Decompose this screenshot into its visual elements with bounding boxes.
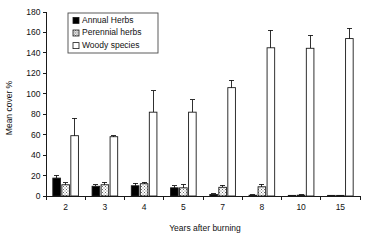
bar-annual-herbs-3 [92,186,100,196]
legend-label: Perennial herbs [82,27,142,37]
dotted-square-marker [73,30,79,36]
bar-annual-herbs-5 [171,188,179,196]
y-tick-label: 40 [31,150,41,160]
y-tick-label: 120 [26,68,40,78]
bar-woody-species-10 [306,48,314,196]
legend-entry: Woody species [73,40,139,50]
bar-perennial-herbs-10 [297,195,305,196]
x-tick-label: 4 [142,202,147,212]
y-tick-label: 20 [31,171,41,181]
y-tick-label: 60 [31,130,41,140]
bar-perennial-herbs-8 [258,187,266,196]
y-tick-label: 0 [36,191,41,201]
x-tick-label: 15 [336,202,346,212]
legend-label: Woody species [82,40,139,50]
y-axis-title-text: Mean cover % [4,80,14,135]
bar-perennial-herbs-2 [62,185,70,196]
bar-annual-herbs-8 [249,195,257,196]
bar-annual-herbs-7 [210,194,218,196]
x-tick-label: 3 [103,202,108,212]
bar-perennial-herbs-3 [101,185,109,196]
bar-perennial-herbs-4 [140,184,148,196]
bar-perennial-herbs-7 [219,187,227,196]
bar-woody-species-3 [110,137,118,196]
bar-woody-species-7 [228,88,236,196]
bar-perennial-herbs-5 [180,188,188,196]
open-square-marker [73,43,79,49]
bar-annual-herbs-2 [53,178,61,196]
y-axis-title: Mean cover % [4,80,14,135]
y-tick-label: 180 [26,7,40,17]
bar-woody-species-4 [149,112,157,196]
bar-chart-svg: 020406080100120140160180 2345781015 Mean… [0,0,367,240]
legend-label: Annual Herbs [82,15,134,25]
legend-entry: Annual Herbs [73,15,134,25]
filled-square-marker [73,17,79,23]
chart-figure: 020406080100120140160180 2345781015 Mean… [0,0,367,240]
y-tick-label: 100 [26,89,40,99]
y-tick-label: 140 [26,48,40,58]
bar-woody-species-2 [71,136,79,196]
bar-annual-herbs-4 [131,186,139,196]
y-tick-label: 80 [31,109,41,119]
x-tick-label: 7 [220,202,225,212]
x-tick-label: 5 [181,202,186,212]
x-axis-title-text: Years after burning [169,223,241,233]
x-tick-label: 2 [63,202,68,212]
bar-woody-species-5 [189,112,197,196]
legend-entry: Perennial herbs [73,27,142,37]
chart-legend: Annual HerbsPerennial herbsWoody species [68,13,158,53]
bar-woody-species-15 [346,39,354,196]
x-tick-label: 8 [260,202,265,212]
y-tick-label: 160 [26,27,40,37]
x-tick-label: 10 [296,202,306,212]
x-axis-title: Years after burning [169,223,241,233]
bar-woody-species-8 [267,48,275,196]
